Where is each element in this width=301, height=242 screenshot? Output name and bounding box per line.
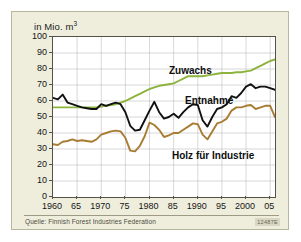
x-tick-label: 1970 [90, 201, 110, 211]
y-tick-label: 70 [21, 80, 47, 89]
y-tick-mark [49, 148, 52, 149]
series-label-entnahme: Entnahme [185, 95, 233, 106]
x-tick-mark [173, 196, 174, 199]
y-tick-label: 20 [21, 160, 47, 169]
y-tick-mark [49, 84, 52, 85]
chart-figure: in Mio. m3 0102030405060708090100 196065… [0, 0, 301, 242]
plot-area [52, 36, 276, 198]
y-tick-label: 0 [21, 192, 47, 201]
x-tick-label: 1990 [187, 201, 207, 211]
x-tick-label: 1960 [42, 201, 62, 211]
y-tick-label: 40 [21, 128, 47, 137]
y-axis-unit-exponent: 3 [73, 20, 77, 27]
y-tick-mark [49, 36, 52, 37]
y-tick-label: 80 [21, 64, 47, 73]
x-tick-mark [76, 196, 77, 199]
x-tick-label: 2000 [235, 201, 255, 211]
chart-canvas [53, 37, 275, 197]
x-tick-label: 75 [119, 201, 129, 211]
y-tick-mark [49, 132, 52, 133]
y-tick-label: 50 [21, 112, 47, 121]
y-tick-mark [49, 100, 52, 101]
x-tick-label: 65 [71, 201, 81, 211]
series-label-holz-fuer-industrie: Holz für Industrie [172, 150, 254, 161]
y-tick-label: 60 [21, 96, 47, 105]
x-tick-label: 05 [264, 201, 274, 211]
x-tick-mark [245, 196, 246, 199]
x-tick-mark [124, 196, 125, 199]
y-tick-label: 100 [21, 32, 47, 41]
source-divider [24, 215, 279, 216]
x-tick-mark [149, 196, 150, 199]
x-tick-mark [197, 196, 198, 199]
x-tick-mark [100, 196, 101, 199]
y-tick-mark [49, 68, 52, 69]
x-tick-mark [52, 196, 53, 199]
y-tick-mark [49, 164, 52, 165]
figure-identifier: 12487E [255, 218, 280, 226]
y-tick-label: 90 [21, 48, 47, 57]
x-tick-mark [221, 196, 222, 199]
y-tick-mark [49, 180, 52, 181]
source-caption: Quelle: Finnish Forest Industries Federa… [25, 218, 156, 225]
x-tick-label: 95 [216, 201, 226, 211]
x-tick-label: 1980 [139, 201, 159, 211]
y-tick-mark [49, 52, 52, 53]
x-tick-mark [269, 196, 270, 199]
x-tick-label: 85 [168, 201, 178, 211]
series-label-zuwachs: Zuwachs [169, 65, 212, 76]
chart-card: in Mio. m3 0102030405060708090100 196065… [11, 11, 289, 230]
y-tick-label: 10 [21, 176, 47, 185]
y-tick-label: 30 [21, 144, 47, 153]
y-tick-mark [49, 116, 52, 117]
